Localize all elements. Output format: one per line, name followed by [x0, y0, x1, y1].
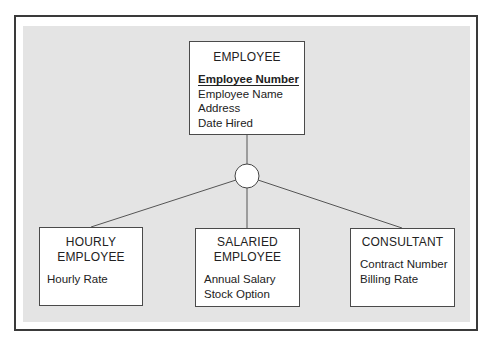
attribute: Address: [198, 101, 304, 116]
attribute: Employee Name: [198, 87, 304, 102]
attribute: Annual Salary: [204, 272, 299, 287]
subtype-circle-icon: [235, 164, 259, 188]
entity-title: CONSULTANT: [351, 235, 454, 250]
attribute: Contract Number: [360, 257, 454, 272]
link-consultant: [258, 180, 402, 228]
entity-hourly-employee: HOURLY EMPLOYEE Hourly Rate: [39, 227, 143, 306]
identifier-attribute: Employee Number: [198, 72, 304, 87]
entity-title: HOURLY: [40, 235, 142, 250]
attribute: Billing Rate: [360, 272, 454, 287]
attribute: Stock Option: [204, 287, 299, 302]
attribute: Date Hired: [198, 116, 304, 131]
entity-title: EMPLOYEE: [190, 50, 304, 65]
entity-title: EMPLOYEE: [196, 250, 299, 265]
entity-title: EMPLOYEE: [40, 250, 142, 265]
entity-title: SALARIED: [196, 235, 299, 250]
attribute: Hourly Rate: [47, 272, 142, 287]
entity-salaried-employee: SALARIED EMPLOYEE Annual Salary Stock Op…: [195, 228, 300, 307]
entity-employee: EMPLOYEE Employee Number Employee Name A…: [189, 41, 305, 135]
link-hourly: [91, 180, 236, 227]
entity-consultant: CONSULTANT Contract Number Billing Rate: [350, 228, 455, 307]
